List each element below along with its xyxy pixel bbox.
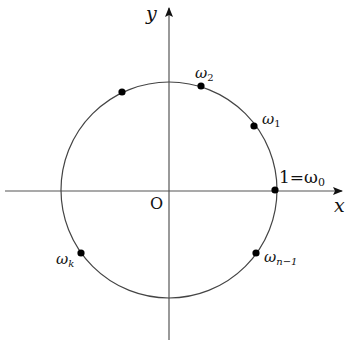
point-unlabeled: [118, 88, 125, 95]
label-omega1: ω1: [262, 110, 281, 129]
unit-circle-diagram: y x O 1=ω0 ω1 ω2 ωk ωn−1: [0, 0, 354, 359]
x-axis-label: x: [334, 194, 345, 216]
label-omega0: 1=ω0: [279, 167, 325, 189]
label-omegan1: ωn−1: [264, 248, 297, 267]
label-omegak: ωk: [56, 250, 74, 269]
point-omega0: [271, 186, 278, 193]
point-omega2: [197, 82, 204, 89]
origin-label: O: [150, 194, 163, 213]
y-axis-label: y: [145, 2, 157, 24]
point-omega1: [250, 122, 257, 129]
label-omega2: ω2: [195, 64, 214, 83]
point-omegak: [77, 249, 84, 256]
point-omegan1: [252, 249, 259, 256]
